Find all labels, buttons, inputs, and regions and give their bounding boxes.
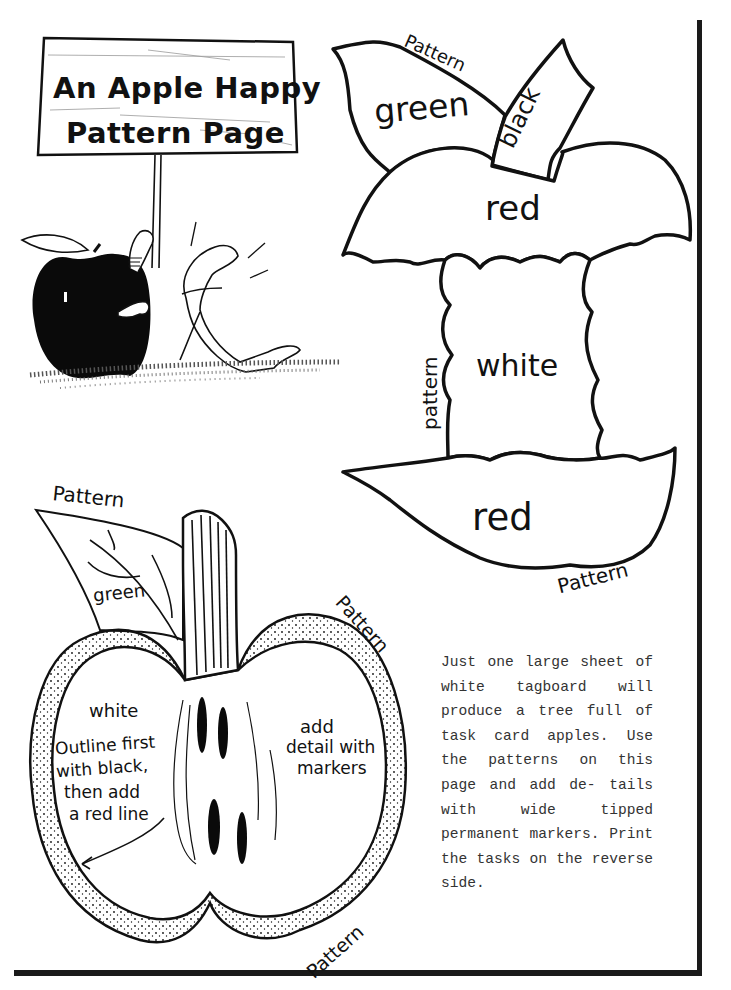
page-border-bottom (14, 970, 702, 976)
core-white-label: white (476, 348, 558, 383)
sign-illustration: An Apple Happy Pattern Page (0, 0, 340, 400)
bottom-red-label: red (472, 496, 533, 539)
detail-line1: add (300, 716, 334, 737)
leaf-color-label: green (372, 84, 470, 131)
instruction-line4: a red line (69, 804, 149, 824)
sign-drawing (0, 0, 340, 400)
flesh-color-label: white (89, 700, 138, 721)
detail-line2: detail with (286, 737, 375, 757)
apple-half-pattern: Pattern green Pattern white Outline firs… (0, 470, 430, 970)
core-side-pattern-label: pattern (418, 357, 442, 431)
apple-half-drawing (0, 470, 430, 970)
sign-title-line1: An Apple Happy (53, 68, 321, 108)
instruction-line3: then add (64, 782, 140, 802)
instructions-paragraph: Just one large sheet of white tagboard w… (441, 650, 653, 896)
sign-title-line2: Pattern Page (66, 113, 285, 153)
detail-line3: markers (297, 758, 367, 778)
top-red-label: red (485, 188, 541, 228)
